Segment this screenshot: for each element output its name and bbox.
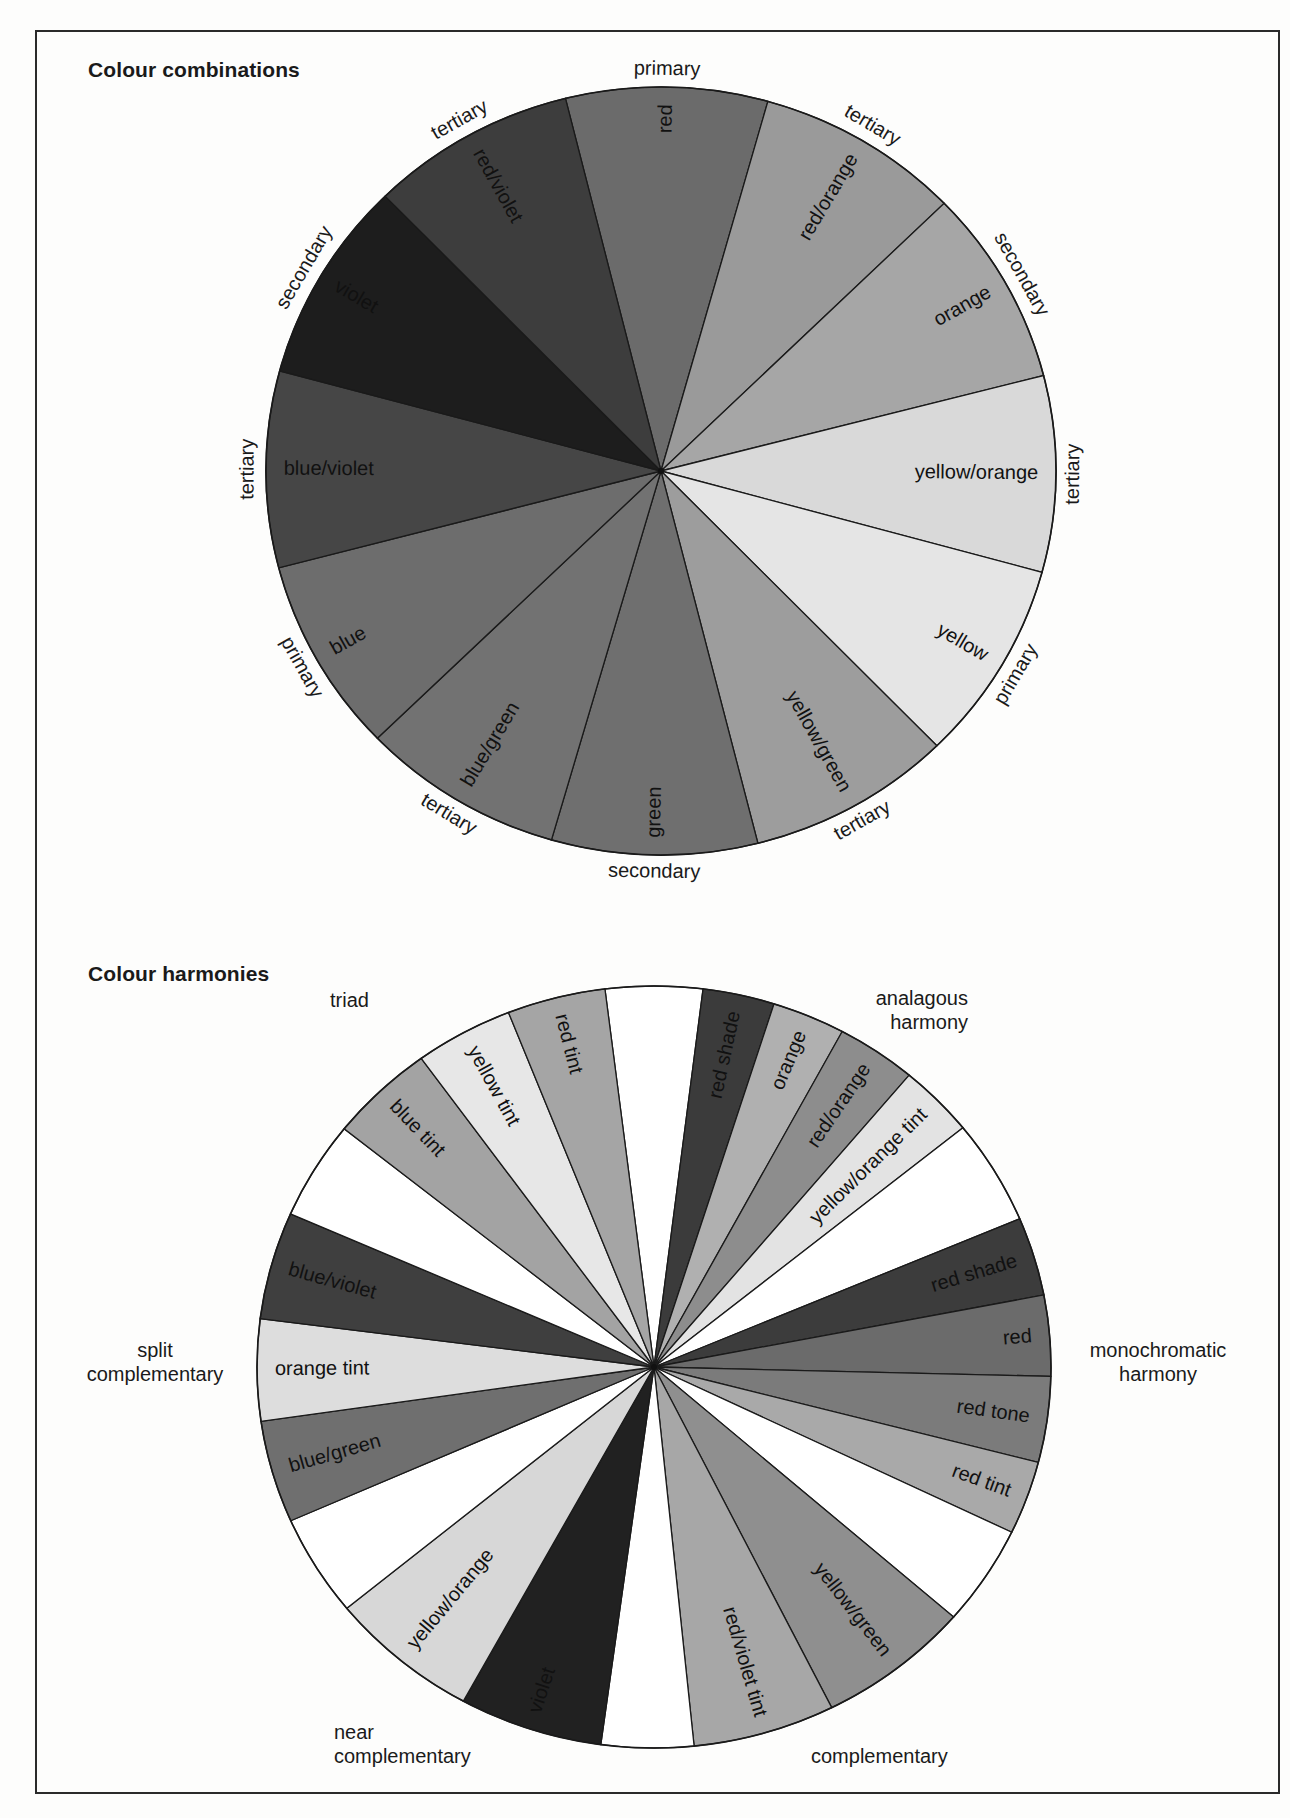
category-label-primary: primary [634,57,701,80]
wedge-label-red: red [1002,1324,1033,1348]
label-monochromatic-harmony: monochromatic harmony [1070,1338,1246,1386]
label-mono-line2: harmony [1070,1362,1246,1386]
label-split-line2: complementary [70,1362,240,1386]
label-analagous-line2: harmony [860,1010,968,1034]
label-analagous: analagous harmony [860,986,968,1034]
wheel-hub [651,1364,657,1370]
label-mono-line1: monochromatic [1070,1338,1246,1362]
colour-combinations-wheel: redprimaryred/orangetertiaryorangesecond… [235,57,1083,883]
category-label-tertiary: tertiary [1061,443,1083,504]
wedge-label-yellow-orange: yellow/orange [915,460,1039,483]
label-split-line1: split [70,1338,240,1362]
label-near-complementary: near complementary [334,1720,471,1768]
colour-harmonies-wheel: red shadeorangered/orangeyellow/orange t… [257,986,1051,1748]
category-label-secondary: secondary [608,859,701,883]
label-triad: triad [330,988,369,1012]
wedge-label-blue-violet: blue/violet [284,457,375,479]
label-split-complementary: split complementary [70,1338,240,1386]
category-label-tertiary: tertiary [235,439,257,500]
label-complementary: complementary [811,1744,948,1768]
wedge-label-green: green [642,786,665,838]
label-analagous-line1: analagous [860,986,968,1010]
wedge-label-red: red [653,104,675,133]
wheel-hub [658,468,664,474]
wedge-label-orange-tint: orange tint [275,1356,370,1379]
label-near-line1: near [334,1720,471,1744]
label-near-line2: complementary [334,1744,471,1768]
colour-wheels: redprimaryred/orangetertiaryorangesecond… [0,0,1290,1818]
